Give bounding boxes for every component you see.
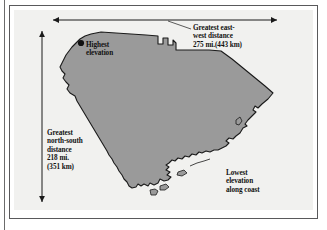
- coastal-inlet-detail-3: [177, 170, 187, 176]
- lowest-elevation-label: Lowest elevation along coast: [226, 169, 260, 194]
- map-graphic: [0, 0, 327, 230]
- coastal-inlet-detail-2: [160, 184, 169, 190]
- highest-elevation-marker: [78, 40, 84, 46]
- greatest-east-west-distance-label: Greatest east- west distance 275 mi.(443…: [193, 24, 242, 49]
- coastal-inlet-detail-4: [190, 159, 210, 166]
- greatest-north-south-distance-label: Greatest north-south distance 218 mi. (3…: [47, 129, 83, 171]
- east-west-leader-line: [168, 21, 191, 29]
- coastal-inlet-detail-1: [150, 189, 158, 195]
- figure-page: Greatest east- west distance 275 mi.(443…: [0, 0, 327, 230]
- highest-elevation-label: Highest elevation: [86, 41, 113, 58]
